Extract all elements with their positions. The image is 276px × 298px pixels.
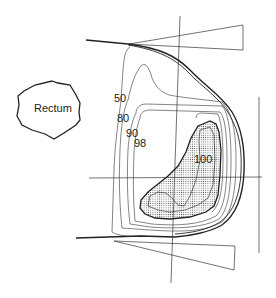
rectum-label: Rectum [34,103,72,114]
target-volume [140,121,221,219]
bottom-beam-wedge [114,241,235,270]
isodose-label-100: 100 [194,154,212,165]
top-beam-wedge [129,25,243,50]
isodose-label-80: 80 [117,113,129,124]
isodose-label-98: 98 [134,138,146,149]
isodose-label-50: 50 [114,93,126,104]
isodose-diagram [0,0,276,298]
